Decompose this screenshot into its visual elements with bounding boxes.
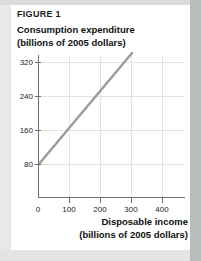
figure-card: FIGURE 1 Consumption expenditure (billio… xyxy=(11,5,190,250)
x-tick-label-400: 400 xyxy=(149,205,175,214)
y-tick-label-240: 240 xyxy=(11,92,33,101)
x-axis-title-line1: Disposable income xyxy=(20,216,188,229)
y-tick-160 xyxy=(35,130,41,131)
right-margin-band xyxy=(190,0,201,261)
bottom-margin-band xyxy=(0,250,201,261)
x-tick-label-100: 100 xyxy=(56,205,82,214)
x-axis-title-line2: (billions of 2005 dollars) xyxy=(20,229,188,242)
x-tick-200 xyxy=(100,197,101,203)
y-tick-320 xyxy=(35,62,41,63)
x-tick-label-300: 300 xyxy=(118,205,144,214)
plot-area: 320 240 160 80 0 100 200 300 400 xyxy=(11,5,190,250)
y-tick-label-320: 320 xyxy=(11,58,33,67)
x-tick-label-200: 200 xyxy=(87,205,113,214)
y-axis-line xyxy=(38,55,39,198)
y-tick-80 xyxy=(35,164,41,165)
y-tick-240 xyxy=(35,96,41,97)
x-axis-title: Disposable income (billions of 2005 doll… xyxy=(20,216,188,241)
x-tick-300 xyxy=(131,197,132,203)
y-tick-label-160: 160 xyxy=(11,126,33,135)
x-tick-label-0: 0 xyxy=(25,205,51,214)
x-tick-400 xyxy=(162,197,163,203)
left-margin-band xyxy=(0,0,11,261)
x-tick-100 xyxy=(69,197,70,203)
y-tick-label-80: 80 xyxy=(11,160,33,169)
